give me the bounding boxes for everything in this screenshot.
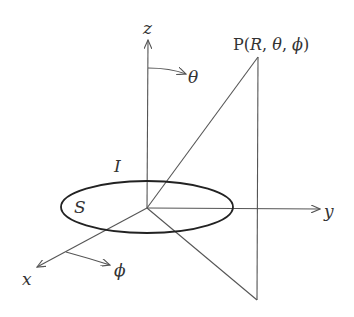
diagram-svg: z θ y x ϕ I S P(R, θ, ϕ) <box>0 0 354 317</box>
phi-arc <box>66 252 110 265</box>
z-axis-label: z <box>142 18 153 38</box>
surface-label: S <box>74 197 86 217</box>
z-axis <box>147 40 148 208</box>
x-axis-label: x <box>22 269 32 289</box>
point-theta: θ <box>272 35 282 54</box>
current-label: I <box>113 156 121 176</box>
x-axis <box>37 208 147 267</box>
phi-label: ϕ <box>114 260 126 280</box>
y-axis-label: y <box>323 201 334 221</box>
projection-line <box>147 208 257 300</box>
theta-label: θ <box>188 67 198 87</box>
point-sep-1: , <box>262 35 272 54</box>
theta-arc <box>148 68 186 74</box>
projection-vertical-line <box>257 57 258 300</box>
point-r: R <box>249 35 262 54</box>
point-suffix: ) <box>303 35 309 54</box>
point-label: P(R, θ, ϕ) <box>233 35 309 54</box>
point-prefix: P( <box>233 35 250 54</box>
point-phi: ϕ <box>292 35 303 54</box>
point-sep-2: , <box>282 35 292 54</box>
diagram-canvas: z θ y x ϕ I S P(R, θ, ϕ) <box>0 0 354 317</box>
radius-line <box>147 57 258 208</box>
